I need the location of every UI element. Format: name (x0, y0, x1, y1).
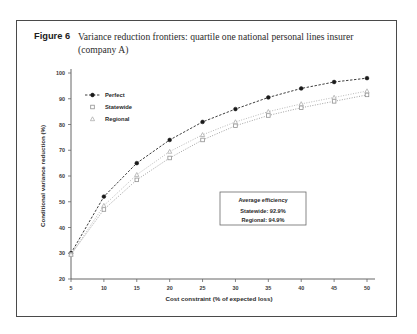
data-point-perfect (266, 96, 270, 100)
legend-label-perfect: Perfect (105, 92, 125, 98)
x-axis-tick-label: 20 (167, 285, 173, 291)
data-point-regional (233, 120, 237, 124)
y-axis-tick-label: 40 (59, 225, 65, 231)
figure-box: Figure 6Variance reduction frontiers: qu… (16, 20, 397, 317)
data-point-regional (168, 149, 172, 153)
x-axis-tick-label: 15 (134, 285, 140, 291)
chart-plot-area: 20304050607080901005101520253035404550Co… (17, 21, 398, 318)
data-point-perfect (332, 80, 336, 84)
annotation-statewide: Statewide: 92.9% (240, 208, 285, 214)
data-point-regional (200, 133, 204, 137)
x-axis-tick-label: 5 (70, 285, 73, 291)
y-axis-title: Conditional variance reduction (%) (39, 125, 46, 227)
data-point-regional (365, 89, 369, 93)
y-axis-tick-label: 30 (59, 250, 65, 256)
annotation-regional: Regional: 94.9% (242, 217, 285, 223)
y-axis-tick-label: 20 (59, 276, 65, 282)
data-point-statewide (299, 106, 303, 110)
data-point-statewide (102, 208, 106, 212)
x-axis-title: Cost constraint (% of expected loss) (166, 295, 273, 302)
annotation-title: Average efficiency (238, 197, 288, 203)
y-axis-tick-label: 100 (56, 70, 65, 76)
legend-marker-perfect (91, 93, 95, 97)
data-point-regional (135, 173, 139, 177)
average-efficiency-annotation: Average efficiencyStatewide: 92.9%Region… (220, 192, 306, 225)
legend-label-regional: Regional (105, 116, 130, 122)
x-axis-tick-label: 45 (331, 285, 337, 291)
legend-marker-statewide (91, 105, 95, 109)
y-axis-tick-label: 70 (59, 147, 65, 153)
y-axis-tick-label: 50 (59, 199, 65, 205)
data-point-perfect (201, 120, 205, 124)
data-point-regional (332, 95, 336, 99)
data-point-statewide (365, 93, 369, 97)
data-point-statewide (234, 124, 238, 128)
data-point-regional (266, 109, 270, 113)
legend-marker-regional (90, 117, 94, 121)
data-point-regional (299, 102, 303, 106)
series-perfect (69, 76, 369, 255)
x-axis-tick-label: 10 (101, 285, 107, 291)
x-axis-tick-label: 50 (364, 285, 370, 291)
data-point-regional (102, 203, 106, 207)
page-body-text-fragment (18, 0, 408, 6)
x-axis-tick-label: 25 (200, 285, 206, 291)
chart-legend: PerfectStatewideRegional (85, 92, 133, 122)
data-point-statewide (267, 114, 271, 118)
data-point-statewide (168, 156, 172, 160)
data-point-perfect (168, 138, 172, 142)
data-point-perfect (234, 107, 238, 111)
variance-reduction-line-chart: 20304050607080901005101520253035404550Co… (17, 21, 398, 318)
data-point-perfect (365, 76, 369, 80)
series-regional (69, 89, 369, 256)
data-point-statewide (201, 138, 205, 142)
data-point-statewide (332, 100, 336, 104)
x-axis-tick-label: 40 (298, 285, 304, 291)
data-point-perfect (102, 195, 106, 199)
x-axis-tick-label: 30 (232, 285, 238, 291)
data-point-perfect (299, 87, 303, 91)
data-point-statewide (135, 178, 139, 182)
y-axis-tick-label: 80 (59, 122, 65, 128)
y-axis-tick-label: 60 (59, 173, 65, 179)
legend-label-statewide: Statewide (105, 104, 133, 110)
y-axis-tick-label: 90 (59, 96, 65, 102)
data-point-perfect (135, 161, 139, 165)
x-axis-tick-label: 35 (265, 285, 271, 291)
